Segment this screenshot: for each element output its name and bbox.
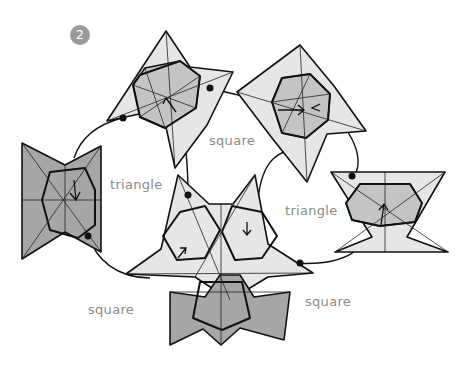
label-square-bottom-left: square xyxy=(88,302,134,317)
diagram-canvas xyxy=(0,0,462,367)
origami-diagram: 2 square triangle triangle square square xyxy=(0,0,462,367)
label-triangle-right: triangle xyxy=(285,203,338,218)
label-square-top: square xyxy=(209,133,255,148)
top-right-unit xyxy=(237,45,366,182)
label-square-bottom-right: square xyxy=(305,294,351,309)
right-unit xyxy=(331,172,448,252)
step-number-badge: 2 xyxy=(70,25,90,45)
label-triangle-left: triangle xyxy=(110,177,163,192)
left-unit xyxy=(22,143,101,259)
center-assembly xyxy=(126,175,313,345)
